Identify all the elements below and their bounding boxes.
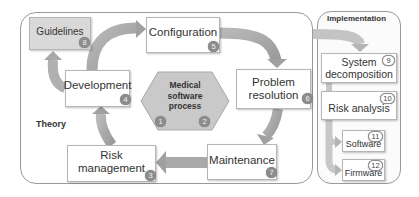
arrowhead-configuration <box>136 20 146 38</box>
arrowhead-system-decomposition <box>351 44 369 52</box>
badge-4: 4 <box>120 94 131 105</box>
center-label-line-2: software <box>141 91 229 102</box>
badge-10: 10 <box>380 93 395 104</box>
arrow-problem-to-maintenance <box>266 109 278 136</box>
badge-9: 9 <box>382 55 395 66</box>
guidelines-label: Guidelines <box>36 25 83 38</box>
implementation-flow-bar <box>326 83 332 91</box>
arrow-theory-to-implementation <box>313 34 360 44</box>
configuration-label: Configuration <box>149 26 217 39</box>
maintenance-label: Maintenance <box>209 154 275 167</box>
badge-1: 1 <box>155 116 166 127</box>
theory-label: Theory <box>36 119 66 129</box>
arrow-development-to-configuration <box>92 28 136 70</box>
badge-5: 5 <box>208 41 219 52</box>
arrowhead-development <box>92 106 110 114</box>
arrow-configuration-to-problem <box>220 33 276 60</box>
risk-analysis-label: Risk analysis <box>328 102 389 115</box>
center-process-label: Medical software process <box>141 80 229 112</box>
node-risk-management[interactable]: Risk management <box>67 145 156 182</box>
arrowhead-guidelines <box>44 51 62 60</box>
arrow-maintenance-to-risk <box>166 157 207 168</box>
badge-11: 11 <box>368 131 383 142</box>
center-label-line-3: process <box>141 101 229 112</box>
badge-7: 7 <box>266 167 277 178</box>
system-decomposition-line-1: System <box>341 56 376 68</box>
arrowhead-software <box>335 136 342 148</box>
development-label: Development <box>64 79 132 92</box>
badge-6: 6 <box>302 93 313 104</box>
problem-resolution-line-1: Problem <box>252 76 295 89</box>
arrow-risk-to-development <box>101 114 112 145</box>
arrowhead-risk-management <box>156 151 166 174</box>
problem-resolution-line-2: resolution <box>249 89 299 102</box>
system-decomposition-line-2: decomposition <box>325 68 393 80</box>
badge-2: 2 <box>199 116 210 127</box>
arrow-risk-analysis-branch <box>329 120 336 170</box>
badge-8: 8 <box>79 37 90 48</box>
arrowhead-problem <box>267 59 287 68</box>
implementation-label: Implementation <box>327 14 386 23</box>
center-label-line-1: Medical <box>141 80 229 91</box>
badge-12: 12 <box>368 160 383 171</box>
arrowhead-firmware <box>335 164 342 176</box>
node-problem-resolution[interactable]: Problem resolution <box>236 69 311 109</box>
badge-3: 3 <box>145 170 156 181</box>
risk-management-label: Risk management <box>68 149 155 175</box>
